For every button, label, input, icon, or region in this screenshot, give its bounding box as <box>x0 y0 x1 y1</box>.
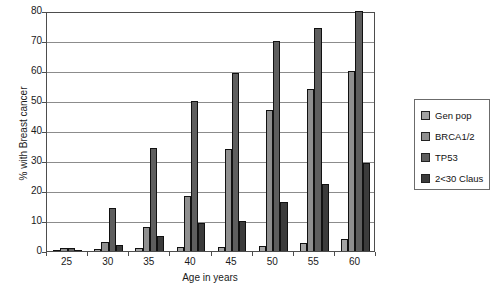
legend-item: BRCA1/2 <box>421 129 475 143</box>
bar <box>198 223 205 252</box>
x-tick-label: 60 <box>334 256 374 267</box>
y-tick-label: 20 <box>12 185 42 196</box>
bar <box>191 101 198 251</box>
legend-label: BRCA1/2 <box>435 131 475 142</box>
bar <box>341 239 348 251</box>
x-tick-mark <box>46 252 47 256</box>
bar <box>218 247 225 252</box>
legend-swatch-icon <box>421 111 430 120</box>
gridline <box>47 42 374 43</box>
legend-swatch-icon <box>421 174 430 183</box>
x-tick-mark <box>211 252 212 256</box>
bar <box>314 28 321 252</box>
gridline <box>47 162 374 163</box>
bar <box>307 89 314 251</box>
gridline <box>47 132 374 133</box>
bar <box>135 248 142 251</box>
y-tick-label: 80 <box>12 5 42 16</box>
x-tick-mark <box>252 252 253 256</box>
legend-item: 2<30 Claus <box>421 171 483 185</box>
bar <box>75 250 82 251</box>
bar <box>239 221 246 251</box>
legend-label: Gen pop <box>435 110 471 121</box>
x-tick-label: 45 <box>211 256 251 267</box>
bar <box>322 184 329 252</box>
legend-label: 2<30 Claus <box>435 173 483 184</box>
bar <box>259 246 266 251</box>
x-tick-label: 40 <box>170 256 210 267</box>
bar <box>363 163 370 252</box>
y-tick-label: 70 <box>12 35 42 46</box>
bar <box>143 227 150 251</box>
legend-swatch-icon <box>421 132 430 141</box>
chart-legend: Gen popBRCA1/2TP532<30 Claus <box>414 99 490 190</box>
bar <box>184 196 191 252</box>
bar <box>355 11 362 251</box>
x-tick-label: 25 <box>47 256 87 267</box>
bar <box>116 245 123 251</box>
x-axis-title: Age in years <box>45 272 375 283</box>
bar <box>266 110 273 251</box>
bar <box>60 248 67 251</box>
y-tick-label: 30 <box>12 155 42 166</box>
plot-area <box>46 12 375 252</box>
bar <box>68 248 75 251</box>
legend-item: Gen pop <box>421 108 471 122</box>
legend-label: TP53 <box>435 152 458 163</box>
bar <box>225 149 232 251</box>
y-tick-label: 60 <box>12 65 42 76</box>
bar-chart: % with Breast cancer Age in years 010203… <box>0 0 500 293</box>
bar <box>157 236 164 251</box>
y-tick-label: 40 <box>12 125 42 136</box>
x-tick-label: 50 <box>252 256 292 267</box>
bar <box>53 250 60 251</box>
bar <box>273 41 280 251</box>
x-tick-label: 35 <box>129 256 169 267</box>
x-tick-mark <box>169 252 170 256</box>
bar <box>348 71 355 251</box>
x-tick-mark <box>87 252 88 256</box>
y-tick-label: 0 <box>12 245 42 256</box>
x-tick-label: 55 <box>293 256 333 267</box>
x-tick-mark <box>293 252 294 256</box>
x-tick-mark <box>334 252 335 256</box>
bar <box>300 243 307 251</box>
gridline <box>47 102 374 103</box>
bar <box>94 249 101 251</box>
gridline <box>47 72 374 73</box>
y-tick-label: 50 <box>12 95 42 106</box>
bar <box>150 148 157 252</box>
x-tick-mark <box>128 252 129 256</box>
bar <box>280 202 287 252</box>
bar <box>177 247 184 251</box>
bar <box>232 73 239 252</box>
legend-swatch-icon <box>421 153 430 162</box>
legend-item: TP53 <box>421 150 458 164</box>
bar <box>101 242 108 251</box>
x-tick-mark <box>375 252 376 256</box>
bar <box>109 208 116 252</box>
y-tick-label: 10 <box>12 215 42 226</box>
x-tick-label: 30 <box>88 256 128 267</box>
